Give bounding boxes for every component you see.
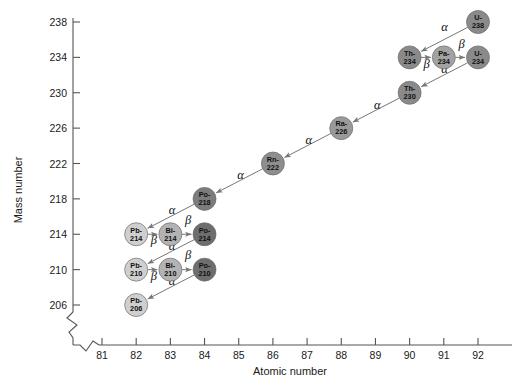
isotope-node-ra-226[interactable]: Ra-226 [330,117,353,140]
y-tick-label: 230 [49,87,67,99]
isotope-mass-label: 214 [164,234,177,243]
isotope-mass-label: 218 [198,198,210,207]
isotope-mass-label: 210 [198,269,210,278]
isotope-mass-label: 222 [267,163,279,172]
x-tick-label: 82 [130,349,142,361]
y-tick-label: 222 [49,158,67,170]
x-tick-label: 84 [199,349,211,361]
y-axis-break-icon [67,312,77,345]
beta-decay-label: β [423,57,431,71]
y-axis-title: Mass number [12,156,24,223]
alpha-decay-label: α [237,168,244,182]
isotope-mass-label: 210 [164,269,176,278]
isotope-nodes: U-238Th-234Pa-234U-234Th-230Ra-226Rn-222… [125,11,490,317]
y-tick-label: 234 [49,51,67,63]
isotope-mass-label: 206 [130,304,142,313]
isotope-node-u-238[interactable]: U-238 [467,11,490,34]
x-axis-ticks: 818283848586878889909192 [96,338,484,361]
isotope-node-pb-206[interactable]: Pb-206 [125,294,148,317]
isotope-mass-label: 210 [130,269,142,278]
beta-decay-label: β [150,233,158,247]
isotope-mass-label: 238 [472,21,484,30]
x-tick-label: 90 [404,349,416,361]
x-tick-label: 89 [370,349,382,361]
x-tick-label: 83 [165,349,177,361]
y-tick-label: 238 [49,16,67,28]
isotope-mass-label: 230 [404,92,416,101]
isotope-node-rn-222[interactable]: Rn-222 [261,152,284,175]
beta-decay-label: β [150,269,158,283]
y-tick-label: 210 [49,264,67,276]
isotope-node-pa-234[interactable]: Pa-234 [432,46,455,69]
x-tick-label: 86 [267,349,279,361]
y-tick-label: 218 [49,193,67,205]
plot-area: 206210214218222226230234238 818283848586… [0,0,519,391]
isotope-node-th-230[interactable]: Th-230 [398,81,421,104]
beta-decay-label: β [184,213,192,227]
beta-decay-label: β [457,37,465,51]
isotope-mass-label: 214 [130,234,143,243]
isotope-mass-label: 226 [335,127,347,136]
y-tick-label: 226 [49,122,67,134]
isotope-node-po-214[interactable]: Po-214 [193,223,216,246]
x-tick-label: 87 [301,349,313,361]
isotope-mass-label: 234 [438,57,451,66]
x-tick-label: 91 [438,349,450,361]
isotope-node-bi-210[interactable]: Bi-210 [159,258,182,281]
x-tick-label: 85 [233,349,245,361]
alpha-decay-label: α [169,203,176,217]
alpha-decay-label: α [441,20,448,34]
alpha-decay-label: α [374,98,381,112]
x-tick-label: 81 [96,349,108,361]
isotope-mass-label: 234 [404,57,417,66]
isotope-mass-label: 234 [472,57,485,66]
isotope-node-u-234[interactable]: U-234 [467,46,490,69]
isotope-mass-label: 214 [198,234,211,243]
isotope-node-pb-210[interactable]: Pb-210 [125,258,148,281]
alpha-decay-label: α [306,133,313,147]
isotope-node-bi-214[interactable]: Bi-214 [159,223,182,246]
isotope-node-po-210[interactable]: Po-210 [193,258,216,281]
y-axis-ticks: 206210214218222226230234238 [49,16,80,311]
y-tick-label: 206 [49,299,67,311]
x-tick-label: 92 [472,349,484,361]
isotope-node-po-218[interactable]: Po-218 [193,187,216,210]
decay-chain-chart: 206210214218222226230234238 818283848586… [0,0,519,391]
x-axis-break-icon [73,341,99,351]
beta-decay-label: β [184,248,192,262]
x-tick-label: 88 [335,349,347,361]
y-tick-label: 214 [49,228,67,240]
isotope-node-pb-214[interactable]: Pb-214 [125,223,148,246]
x-axis-title: Atomic number [253,365,327,377]
decay-arrows [148,27,468,299]
isotope-node-th-234[interactable]: Th-234 [398,46,421,69]
